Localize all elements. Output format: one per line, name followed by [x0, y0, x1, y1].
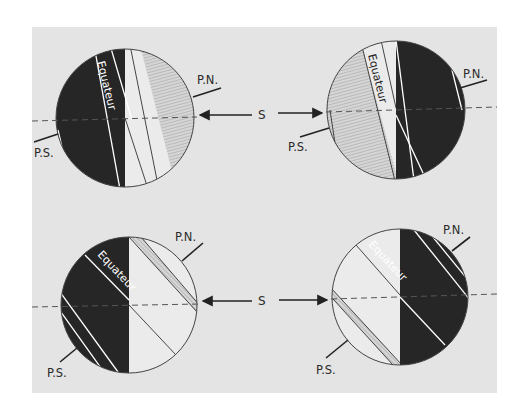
south-pole-label: P.S.	[47, 366, 67, 380]
north-pole-label: P.N.	[197, 73, 218, 87]
north-pole-label: P.N.	[463, 67, 484, 81]
north-pole-label: P.N.	[175, 230, 196, 244]
sun-label: S	[258, 294, 266, 308]
north-pole-label: P.N.	[443, 223, 464, 237]
south-pole-label: P.S.	[34, 146, 54, 160]
south-pole-label: P.S.	[316, 363, 336, 377]
sun-label: S	[258, 108, 266, 122]
solar-illumination-diagram: P.N. P.S. Equateur P.N. P.S. Equateur S	[0, 0, 518, 418]
south-pole-label: P.S.	[288, 140, 308, 154]
